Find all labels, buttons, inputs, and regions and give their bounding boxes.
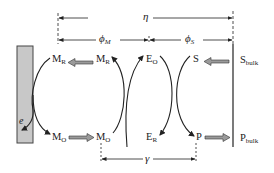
reaction-diagram (0, 0, 274, 173)
electron-label: e (19, 116, 23, 126)
species-s-bulk: Sbulk (240, 55, 258, 67)
species-p: P (196, 132, 202, 143)
curve-mo-to-mr (112, 57, 124, 133)
phi-m-label: ϕM (99, 33, 111, 46)
arrow-p-to-pbulk (205, 134, 230, 142)
eta-label: η (143, 11, 148, 22)
gamma-label: γ (145, 153, 149, 164)
species-mr-film: MR (96, 54, 110, 66)
species-eo: EO (146, 54, 157, 66)
phi-s-label: ϕS (185, 33, 194, 46)
curve-electrode-to-mo (33, 95, 50, 134)
curve-s-to-p (177, 56, 194, 136)
species-mo-electrode: MO (52, 132, 66, 144)
species-mr-electrode: MR (52, 54, 66, 66)
curve-er-to-eo (126, 56, 143, 147)
species-er: ER (146, 132, 157, 144)
arrow-sbulk-to-s (204, 58, 229, 66)
species-p-bulk: Pbulk (240, 133, 258, 145)
species-mo-film: MO (96, 132, 110, 144)
arrow-mr-film-to-electrode (68, 59, 93, 67)
curve-eo-to-er (160, 56, 172, 135)
species-s: S (193, 54, 199, 65)
transfer-arrows (68, 58, 230, 142)
arrow-mo-electrode-to-film (69, 134, 94, 142)
